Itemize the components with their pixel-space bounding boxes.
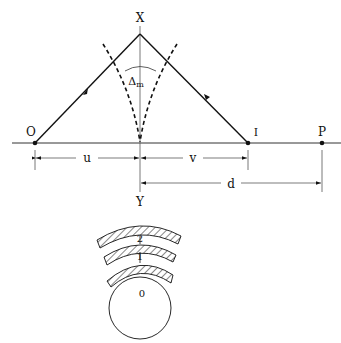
label-layer-2: 2 (137, 233, 143, 244)
d-arrow-right-icon (316, 181, 321, 185)
label-y: Y (135, 195, 145, 209)
layered-sphere: 2 1 0 (97, 226, 181, 339)
core-circle (109, 277, 171, 339)
u-arrow-left-icon (36, 156, 41, 160)
v-arrow-right-icon (242, 156, 247, 160)
dashed-curve-left (103, 44, 140, 142)
incident-ray (35, 34, 140, 143)
object-point (33, 141, 38, 146)
label-u: u (83, 151, 91, 165)
v-arrow-left-icon (141, 156, 146, 160)
label-o: O (26, 125, 36, 139)
emergent-ray (140, 34, 248, 143)
label-layer-0: 0 (139, 288, 145, 299)
label-deviation: Δm (128, 75, 144, 89)
label-i: I (254, 126, 258, 139)
dashed-curve-right (140, 44, 177, 142)
label-v: v (189, 151, 197, 165)
optics-diagram: X Y O I P u v d Δm 2 1 0 (0, 0, 341, 343)
image-point (246, 141, 251, 146)
label-x: X (136, 11, 145, 25)
u-arrow-right-icon (134, 156, 139, 160)
d-arrow-left-icon (141, 181, 146, 185)
label-layer-1: 1 (137, 251, 143, 262)
point-p (320, 141, 325, 146)
label-d: d (227, 177, 235, 191)
deviation-angle-arc (125, 67, 156, 72)
label-p: P (318, 125, 326, 139)
